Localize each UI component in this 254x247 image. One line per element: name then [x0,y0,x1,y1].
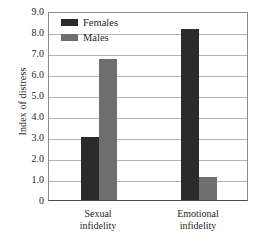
y-axis-tick-label: 3.0 [14,133,44,143]
legend-label: Females [83,17,118,28]
bar-females-sexual-infidelity [81,137,99,200]
x-axis-category-label-line: infidelity [153,220,243,232]
bar-males-emotional-infidelity [199,177,217,200]
legend-item-females[interactable]: Females [61,16,118,28]
y-axis-tick-label: 4.0 [14,112,44,122]
x-axis-category-label: Emotionalinfidelity [153,208,243,232]
y-axis-tick-label: 1.0 [14,175,44,185]
y-axis-tick-label: 2.0 [14,154,44,164]
x-axis-category-labels: SexualinfidelityEmotionalinfidelity [48,208,248,242]
x-axis-category-label-line: infidelity [53,220,143,232]
y-axis-tick-label: 8.0 [14,28,44,38]
bar-females-emotional-infidelity [181,29,199,200]
x-axis-category-label-line: Emotional [177,208,219,219]
legend-label: Males [83,32,109,43]
legend-item-males[interactable]: Males [61,31,118,43]
y-axis-tick-label: 6.0 [14,70,44,80]
x-axis-category-label-line: Sexual [84,208,111,219]
y-axis-tick-labels: 9.08.07.06.05.04.03.02.01.00 [14,12,44,201]
legend-swatch-icon [61,34,78,41]
y-axis-tick-label: 9.0 [14,7,44,17]
y-axis-tick-label: 7.0 [14,49,44,59]
y-axis-tick-label: 0 [14,196,44,206]
bar-males-sexual-infidelity [99,59,117,200]
plot-area: FemalesMales [48,12,248,201]
legend: FemalesMales [61,16,118,43]
x-axis-category-label: Sexualinfidelity [53,208,143,232]
y-axis-tick-label: 5.0 [14,91,44,101]
bar-chart: Index of distress 9.08.07.06.05.04.03.02… [0,0,254,247]
legend-swatch-icon [61,19,78,26]
